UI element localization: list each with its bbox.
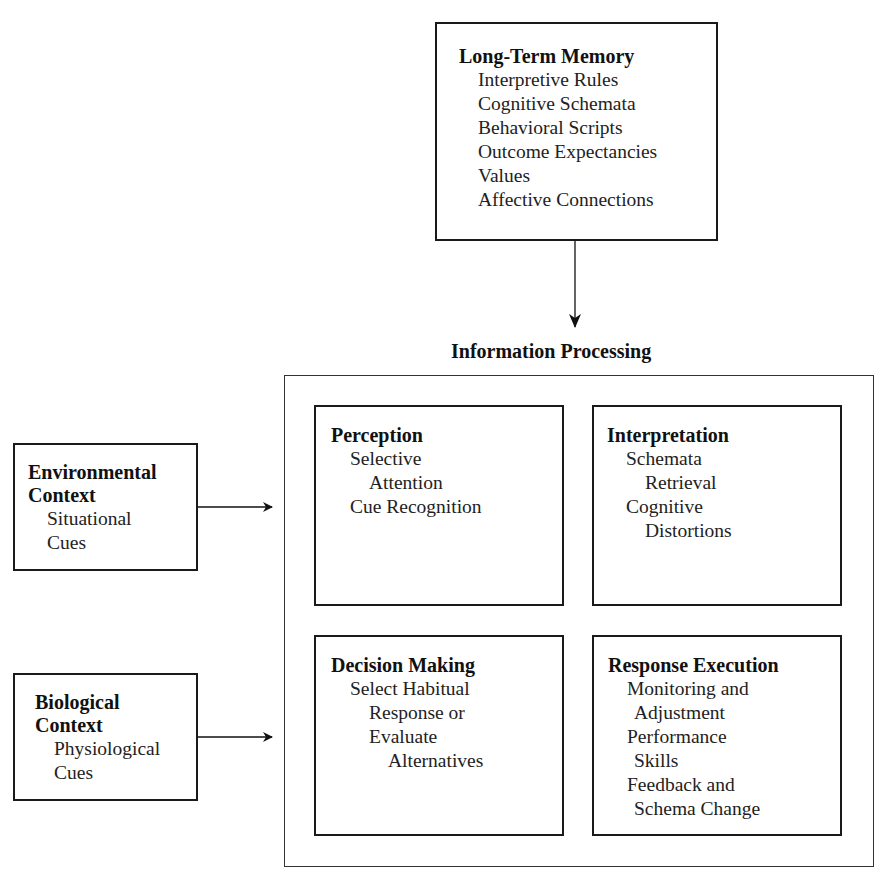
response-execution-line: Skills [608, 749, 779, 773]
perception-title: Perception [331, 424, 482, 447]
ltm-item: Affective Connections [459, 188, 657, 212]
response-execution-line: Schema Change [608, 797, 779, 821]
long-term-memory-box: Long-Term Memory Interpretive Rules Cogn… [435, 22, 718, 241]
environmental-context-box: Environmental Context Situational Cues [13, 443, 198, 571]
decision-making-line: Select Habitual [331, 677, 483, 701]
long-term-memory-title: Long-Term Memory [459, 45, 657, 68]
interpretation-line: Cognitive [607, 495, 732, 519]
ltm-item: Behavioral Scripts [459, 116, 657, 140]
interpretation-line: Schemata [607, 447, 732, 471]
response-execution-line: Monitoring and [608, 677, 779, 701]
ltm-item: Values [459, 164, 657, 188]
biological-context-title: Context [35, 714, 160, 737]
perception-line: Cue Recognition [331, 495, 482, 519]
response-execution-line: Adjustment [608, 701, 779, 725]
biological-context-line: Physiological [35, 737, 160, 761]
environmental-context-line: Situational [28, 507, 157, 531]
decision-making-title: Decision Making [331, 654, 483, 677]
ltm-item: Cognitive Schemata [459, 92, 657, 116]
interpretation-line: Retrieval [607, 471, 732, 495]
decision-making-box: Decision Making Select Habitual Response… [314, 635, 564, 836]
perception-line: Attention [331, 471, 482, 495]
decision-making-line: Response or [331, 701, 483, 725]
environmental-context-line: Cues [28, 531, 157, 555]
biological-context-title: Biological [35, 691, 160, 714]
decision-making-line: Evaluate [331, 725, 483, 749]
environmental-context-title: Context [28, 484, 157, 507]
response-execution-title: Response Execution [608, 654, 779, 677]
interpretation-line: Distortions [607, 519, 732, 543]
environmental-context-title: Environmental [28, 461, 157, 484]
interpretation-title: Interpretation [607, 424, 732, 447]
ltm-item: Interpretive Rules [459, 68, 657, 92]
response-execution-box: Response Execution Monitoring and Adjust… [592, 635, 842, 836]
decision-making-line: Alternatives [331, 749, 483, 773]
response-execution-line: Performance [608, 725, 779, 749]
ltm-item: Outcome Expectancies [459, 140, 657, 164]
response-execution-line: Feedback and [608, 773, 779, 797]
information-processing-title: Information Processing [451, 340, 651, 363]
perception-box: Perception Selective Attention Cue Recog… [314, 405, 564, 606]
interpretation-box: Interpretation Schemata Retrieval Cognit… [592, 405, 842, 606]
biological-context-box: Biological Context Physiological Cues [13, 673, 198, 801]
biological-context-line: Cues [35, 761, 160, 785]
perception-line: Selective [331, 447, 482, 471]
